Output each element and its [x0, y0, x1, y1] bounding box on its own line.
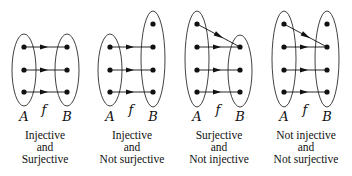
set-a-label: A: [278, 109, 288, 124]
elements: [281, 21, 329, 94]
set-a-label: A: [18, 109, 28, 124]
caption-line-2: and: [298, 141, 315, 153]
caption-line-3: Surjective: [22, 153, 69, 166]
arrows: [24, 45, 67, 95]
elements: [194, 21, 242, 94]
caption-line-2: and: [37, 141, 54, 153]
arrows: [284, 24, 327, 95]
set-b-label: B: [147, 109, 158, 124]
function-label: f: [128, 102, 136, 117]
elements: [107, 21, 155, 94]
diagram-surjective-not-injective: A f B Surjective and Not injective: [185, 11, 252, 166]
arrows: [110, 45, 153, 95]
diagram-not-injective-not-surjective: A f B Not injective and Not surjective: [272, 11, 339, 166]
caption-line-2: and: [124, 141, 141, 153]
caption-line-3: Not surjective: [100, 153, 165, 166]
set-b-label: B: [234, 109, 245, 124]
set-a-label: A: [191, 109, 201, 124]
function-label: f: [302, 102, 310, 117]
set-b-label: B: [321, 109, 332, 124]
function-types-diagram: A f B Injective and Surjective A f B Inj…: [0, 0, 352, 176]
set-b-label: B: [61, 109, 72, 124]
diagram-injective-surjective: A f B Injective and Surjective: [12, 34, 79, 166]
caption-line-2: and: [211, 141, 228, 153]
arrows: [197, 24, 240, 95]
diagram-injective-not-surjective: A f B Injective and Not surjective: [98, 11, 165, 166]
set-a-label: A: [104, 109, 114, 124]
caption-line-3: Not injective: [189, 153, 249, 166]
function-label: f: [215, 102, 223, 117]
caption-line-3: Not surjective: [274, 153, 339, 166]
function-label: f: [41, 102, 49, 117]
